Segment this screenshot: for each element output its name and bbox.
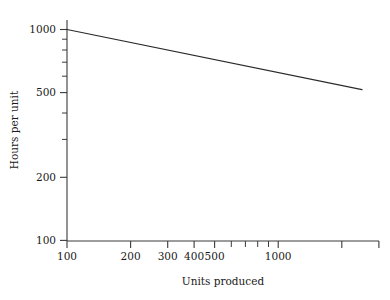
x-tick-label-500: 500 <box>205 250 225 262</box>
x-tick-label-200: 200 <box>121 250 141 262</box>
chart-svg: 1000 500 200 100 100 200 300 400 500 <box>0 0 390 300</box>
y-tick-label-100: 100 <box>36 234 56 246</box>
x-tick-label-400: 400 <box>184 250 204 262</box>
y-axis-ticks <box>60 30 67 241</box>
x-tick-label-1000: 1000 <box>265 250 292 262</box>
y-axis-title: Hours per unit <box>8 90 20 169</box>
y-axis-tick-labels: 1000 500 200 100 <box>29 23 56 246</box>
x-tick-label-100: 100 <box>57 250 77 262</box>
y-tick-label-500: 500 <box>36 86 56 98</box>
data-series-group <box>67 30 362 90</box>
axes-group <box>67 20 379 241</box>
chart-container: 1000 500 200 100 100 200 300 400 500 <box>0 0 390 300</box>
y-tick-label-1000: 1000 <box>29 23 56 35</box>
x-tick-label-300: 300 <box>158 250 178 262</box>
x-axis-title: Units produced <box>182 275 265 287</box>
x-axis-ticks <box>67 241 379 248</box>
data-line-learning-curve <box>67 30 362 90</box>
y-tick-label-200: 200 <box>36 171 56 183</box>
x-axis-tick-labels: 100 200 300 400 500 1000 <box>57 250 292 262</box>
